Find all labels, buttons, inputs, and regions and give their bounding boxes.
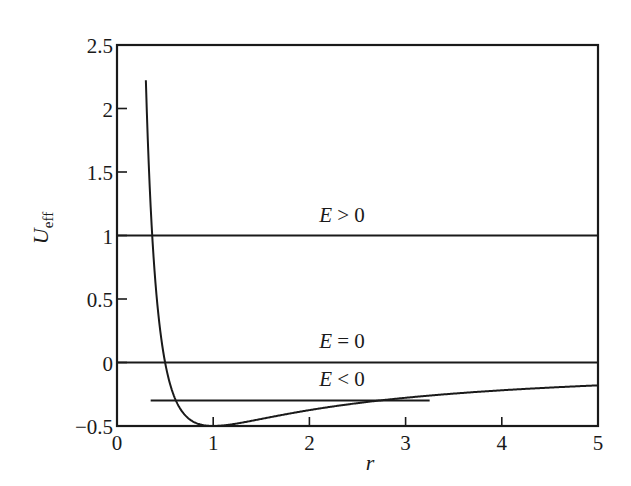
- ticks: 012345−0.500.511.522.5: [75, 34, 603, 455]
- y-tick-label: 2: [103, 98, 114, 122]
- y-axis-label: Ueff: [28, 212, 56, 244]
- svg-text:Ueff: Ueff: [28, 212, 56, 244]
- effective-potential-chart: 012345−0.500.511.522.5 r Ueff E > 0 E = …: [0, 0, 631, 486]
- y-tick-label: 2.5: [87, 34, 113, 58]
- x-tick-label: 1: [208, 431, 219, 455]
- effective-potential-curve: [146, 80, 598, 426]
- y-tick-label: 1.5: [87, 161, 113, 185]
- y-tick-label: 1: [103, 225, 114, 249]
- annotation-e-positive: E > 0: [318, 203, 365, 227]
- annotation-e-negative: E < 0: [318, 367, 365, 391]
- x-tick-label: 5: [593, 431, 604, 455]
- y-tick-label: −0.5: [75, 415, 113, 439]
- x-tick-label: 4: [497, 431, 508, 455]
- y-tick-label: 0.5: [87, 288, 113, 312]
- annotation-e-zero: E = 0: [318, 329, 365, 353]
- y-tick-label: 0: [103, 352, 114, 376]
- x-tick-label: 3: [400, 431, 411, 455]
- x-tick-label: 0: [112, 431, 123, 455]
- x-axis-label: r: [366, 450, 375, 475]
- x-tick-label: 2: [304, 431, 315, 455]
